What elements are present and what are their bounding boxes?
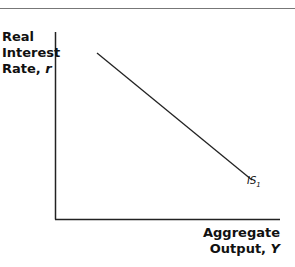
y-axis-label: Real Interest Rate, r (2, 29, 60, 77)
y-symbol: r (45, 61, 51, 76)
chart-root: Real Interest Rate, r Aggregate Output, … (0, 0, 295, 267)
x-label-line2: Output, Y (203, 241, 280, 257)
curve-label: IS1 (247, 175, 261, 189)
curve-name: IS (247, 175, 256, 186)
y-label-line2: Interest (2, 45, 60, 61)
x-label-text: Output, (210, 241, 271, 256)
y-label-line1: Real (2, 29, 60, 45)
x-label-line1: Aggregate (203, 225, 280, 241)
y-label-line3: Rate, r (2, 61, 60, 77)
curve-subscript: 1 (256, 181, 260, 189)
y-label-text: Rate, (2, 61, 45, 76)
x-symbol: Y (271, 241, 280, 256)
x-axis-label: Aggregate Output, Y (203, 225, 280, 257)
is-curve (97, 53, 252, 180)
